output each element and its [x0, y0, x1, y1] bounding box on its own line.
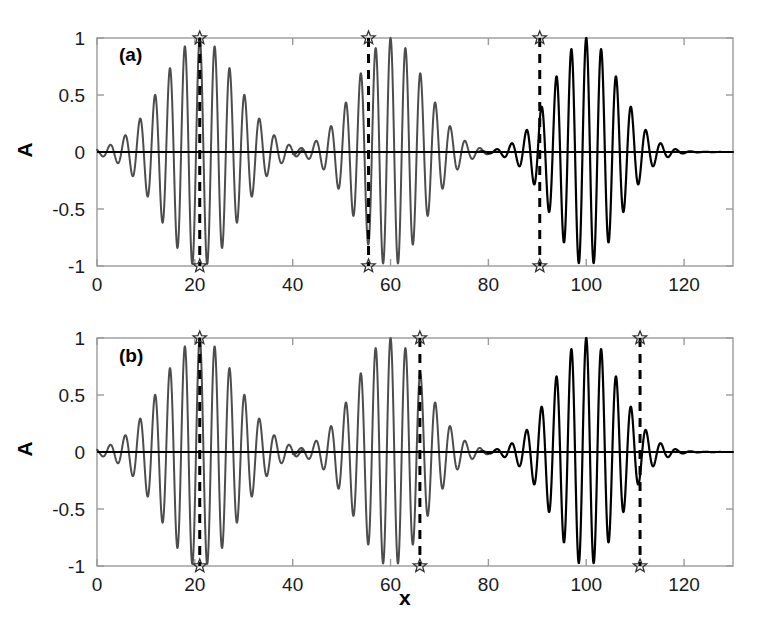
panel-a-plot: 020406080100120-1-0.500.51 — [0, 0, 765, 300]
y-tick-label: -1 — [68, 556, 85, 577]
wave-packet-packet-3 — [479, 338, 733, 563]
y-tick-label: 0.5 — [59, 385, 85, 406]
y-tick-label: 0.5 — [59, 85, 85, 106]
x-tick-label: 60 — [380, 574, 401, 595]
figure-canvas: 020406080100120-1-0.500.51 0204060801001… — [0, 0, 765, 623]
x-tick-label: 120 — [668, 574, 700, 595]
wave-packet-packet-2 — [293, 338, 489, 563]
y-axis-label-a: A — [13, 135, 37, 165]
wave-packet-packet-3 — [479, 38, 733, 263]
x-tick-label: 80 — [478, 574, 499, 595]
panel-b: 020406080100120-1-0.500.51 — [0, 300, 765, 623]
x-tick-label: 20 — [184, 574, 205, 595]
y-tick-label: 0 — [74, 442, 85, 463]
x-tick-label: 80 — [478, 274, 499, 295]
x-tick-label: 20 — [184, 274, 205, 295]
y-axis-label-b: A — [13, 434, 37, 464]
panel-a: 020406080100120-1-0.500.51 — [0, 0, 765, 300]
x-tick-label: 0 — [92, 574, 103, 595]
x-tick-label: 100 — [570, 274, 602, 295]
x-axis-label: x — [399, 586, 411, 610]
x-tick-label: 40 — [282, 574, 303, 595]
y-tick-label: 1 — [74, 28, 85, 49]
y-tick-label: -0.5 — [52, 199, 85, 220]
wave-packet-packet-2 — [293, 38, 489, 263]
x-tick-label: 60 — [380, 274, 401, 295]
y-tick-label: -0.5 — [52, 499, 85, 520]
x-tick-label: 100 — [570, 574, 602, 595]
x-tick-label: 120 — [668, 274, 700, 295]
panel-b-plot: 020406080100120-1-0.500.51 — [0, 300, 765, 623]
x-tick-label: 40 — [282, 274, 303, 295]
y-tick-label: 0 — [74, 142, 85, 163]
x-tick-label: 0 — [92, 274, 103, 295]
panel-label-a: (a) — [119, 44, 142, 66]
panel-label-b: (b) — [119, 345, 143, 367]
y-tick-label: -1 — [68, 256, 85, 277]
y-tick-label: 1 — [74, 328, 85, 349]
